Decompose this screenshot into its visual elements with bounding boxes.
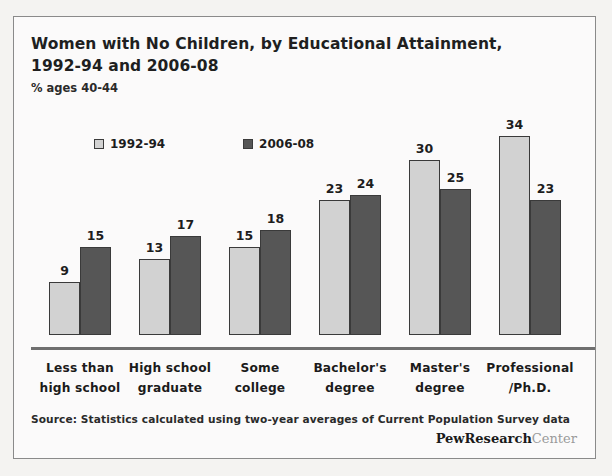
pew-research-center-logo: PewResearchCenter [436,431,577,446]
bar-wrapper: 9 [49,117,80,335]
bar[interactable] [80,247,111,335]
bar-wrapper: 23 [530,117,561,335]
chart-figure-frame: Women with No Children, by Educational A… [13,16,596,459]
x-axis-label-line: Professional [475,358,585,378]
bar-group: 1518 [229,117,291,335]
x-axis-line [31,347,595,350]
bar[interactable] [409,160,440,336]
bar-value-label: 34 [499,117,530,132]
bar-wrapper: 17 [170,117,201,335]
x-axis-label-line: /Ph.D. [475,378,585,398]
bar[interactable] [440,189,471,335]
bar-value-label: 18 [260,211,291,226]
bar-wrapper: 18 [260,117,291,335]
bar-wrapper: 25 [440,117,471,335]
source-note: Source: Statistics calculated using two-… [31,413,570,425]
bar[interactable] [260,230,291,335]
bar-group: 3025 [409,117,471,335]
chart-subtitle: % ages 40-44 [31,81,118,95]
bar-group: 2324 [319,117,381,335]
bar[interactable] [49,282,80,335]
bar-wrapper: 34 [499,117,530,335]
bar-value-label: 15 [80,228,111,243]
bar-wrapper: 23 [319,117,350,335]
bar-value-label: 15 [229,228,260,243]
bar[interactable] [170,236,201,335]
bar[interactable] [499,136,530,335]
bar-group: 915 [49,117,111,335]
bar-wrapper: 24 [350,117,381,335]
x-axis-label: Professional/Ph.D. [475,358,585,398]
bar-value-label: 25 [440,170,471,185]
chart-title: Women with No Children, by Educational A… [31,33,551,77]
bar-value-label: 24 [350,176,381,191]
bar-value-label: 17 [170,217,201,232]
bar[interactable] [350,195,381,335]
bar-value-label: 30 [409,141,440,156]
bar-value-label: 9 [49,263,80,278]
bar-group: 1317 [139,117,201,335]
bar-value-label: 23 [530,181,561,196]
brand-primary-text: PewResearch [436,431,532,446]
bar[interactable] [139,259,170,335]
bar-wrapper: 30 [409,117,440,335]
bar[interactable] [229,247,260,335]
bar[interactable] [319,200,350,335]
brand-secondary-text: Center [532,431,577,446]
x-axis-tick-labels: Less thanhigh schoolHigh schoolgraduateS… [31,358,583,406]
bar[interactable] [530,200,561,335]
bar-value-label: 13 [139,240,170,255]
bar-wrapper: 15 [229,117,260,335]
chart-plot-area: 91513171518232430253423 [31,117,583,335]
bar-wrapper: 15 [80,117,111,335]
bar-value-label: 23 [319,181,350,196]
bar-group: 3423 [499,117,561,335]
bar-wrapper: 13 [139,117,170,335]
